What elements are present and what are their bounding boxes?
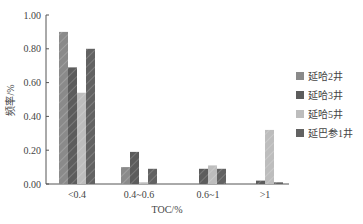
x-axis-title: TOC/% [152,204,183,215]
x-tick-label: <0.4 [68,189,86,200]
x-tick-label: 0.6~1 [197,189,220,200]
bars [59,32,283,184]
x-tick-label: >1 [260,189,271,200]
legend-label: 延哈5井 [308,106,343,121]
legend-label: 延哈3井 [308,87,343,102]
y-tick-label: 0.40 [24,111,42,122]
legend-swatch [296,91,304,99]
legend-item: 延哈5井 [296,104,353,123]
y-tick-label: 0.00 [24,179,42,190]
y-tick-label: 0.80 [24,43,42,54]
legend-swatch [296,110,304,118]
legend: 延哈2井延哈3井延哈5井延巴参1井 [296,66,353,142]
legend-label: 延巴参1井 [308,125,353,140]
y-tick-label: 0.60 [24,77,42,88]
legend-item: 延巴参1井 [296,123,353,142]
legend-swatch [296,129,304,137]
legend-item: 延哈3井 [296,85,353,104]
y-tick-label: 1.00 [24,10,42,21]
x-tick-label: 0.4~0.6 [124,189,154,200]
legend-swatch [296,72,304,80]
y-tick-label: 0.20 [24,145,42,156]
legend-item: 延哈2井 [296,66,353,85]
legend-label: 延哈2井 [308,68,343,83]
y-axis-title: 频率/% [4,84,16,115]
